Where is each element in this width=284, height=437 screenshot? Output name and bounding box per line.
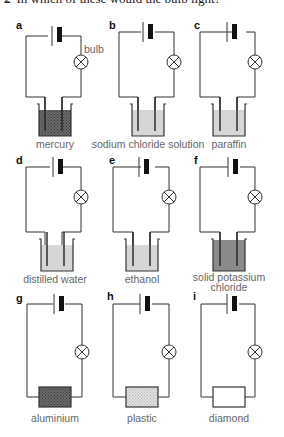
bulb-label: bulb xyxy=(84,43,104,55)
bulb-icon xyxy=(74,55,88,69)
panel-caption: sodium chloride solution xyxy=(92,138,205,150)
panel-caption: ethanol xyxy=(125,273,159,285)
battery-icon xyxy=(53,157,63,177)
bulb-icon xyxy=(162,190,176,204)
battery-icon xyxy=(227,294,237,314)
bulb-icon xyxy=(167,55,181,69)
bulb-icon xyxy=(248,190,262,204)
panel-i: i diamond xyxy=(193,290,262,424)
panel-letter: h xyxy=(107,290,114,302)
panel-c: c paraffin xyxy=(194,19,262,150)
battery-icon xyxy=(140,294,150,314)
panel-letter: f xyxy=(194,154,198,166)
panel-caption: distilled water xyxy=(23,273,87,285)
panel-caption: paraffin xyxy=(212,138,247,150)
beaker-icon xyxy=(37,97,73,136)
battery-icon xyxy=(54,294,64,314)
beaker-icon xyxy=(124,232,160,271)
panel-letter: g xyxy=(16,292,23,304)
beaker-icon xyxy=(39,232,75,271)
panel-letter: e xyxy=(109,154,115,166)
sample-block xyxy=(126,387,158,407)
panel-caption: plastic xyxy=(127,412,157,424)
panel-letter: i xyxy=(193,290,196,302)
beaker-icon xyxy=(211,232,247,271)
circuit-wires xyxy=(113,304,169,397)
panel-letter: b xyxy=(109,19,116,31)
panel-f: f solid potassium chloride xyxy=(193,154,266,293)
panel-letter: c xyxy=(194,19,200,31)
panel-a: a bulb mercury xyxy=(16,19,104,150)
battery-icon xyxy=(143,22,153,42)
bulb-icon xyxy=(75,345,89,359)
panel-e: e ethanol xyxy=(109,154,176,285)
panel-h: h plastic xyxy=(107,290,176,424)
sample-block xyxy=(213,387,245,407)
circuit-diagrams: a bulb mercury b xyxy=(0,0,284,437)
bulb-icon xyxy=(74,190,88,204)
bulb-icon xyxy=(248,345,262,359)
panel-letter: d xyxy=(16,154,23,166)
panel-letter: a xyxy=(16,19,23,31)
panel-d: d distilled water xyxy=(16,154,88,285)
panel-g: g aluminium xyxy=(16,292,89,424)
panel-caption: aluminium xyxy=(31,412,79,424)
panel-caption: mercury xyxy=(36,138,75,150)
panel-caption: diamond xyxy=(209,412,249,424)
panel-caption-line2: chloride xyxy=(211,281,248,293)
beaker-icon xyxy=(130,97,166,136)
sample-block xyxy=(39,387,71,407)
circuit-wires xyxy=(201,304,255,397)
bulb-icon xyxy=(248,55,262,69)
panel-b: b sodium chloride solution xyxy=(92,19,205,150)
beaker-icon xyxy=(211,97,247,136)
battery-icon xyxy=(228,157,238,177)
bulb-icon xyxy=(162,345,176,359)
battery-icon xyxy=(52,26,62,46)
circuit-wires xyxy=(27,304,82,397)
